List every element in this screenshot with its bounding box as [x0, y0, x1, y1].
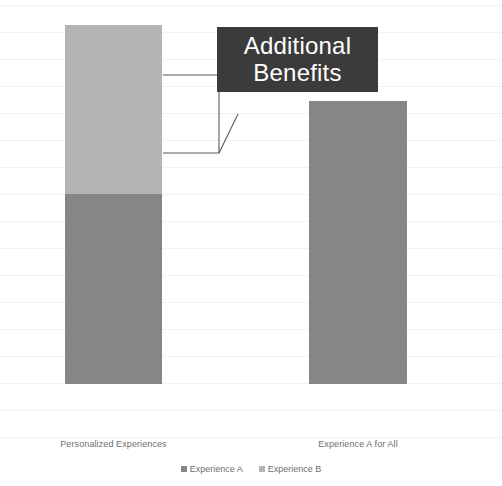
category-label-personalized-experiences: Personalized Experiences: [52, 439, 175, 449]
bar-segment-experience-b[interactable]: [65, 25, 162, 194]
legend-item-experience-b[interactable]: Experience B: [259, 464, 322, 474]
bar-segment-experience-a[interactable]: [65, 194, 162, 384]
chart-legend: Experience A Experience B: [0, 464, 502, 474]
callout-line-1: Additional: [244, 33, 351, 60]
additional-benefits-callout[interactable]: Additional Benefits: [217, 27, 378, 92]
legend-swatch-icon: [181, 466, 187, 472]
bar-segment-experience-a[interactable]: [309, 101, 407, 384]
legend-label: Experience B: [268, 464, 322, 474]
callout-line-2: Benefits: [253, 60, 341, 87]
legend-label: Experience A: [190, 464, 243, 474]
gridline: [0, 437, 502, 438]
category-label-experience-a-for-all: Experience A for All: [302, 439, 414, 449]
legend-item-experience-a[interactable]: Experience A: [181, 464, 243, 474]
bar-stack: [65, 25, 162, 384]
legend-swatch-icon: [259, 466, 265, 472]
bar-stack: [309, 101, 407, 384]
stacked-bar-chart: Additional Benefits Personalized Experie…: [0, 0, 502, 486]
